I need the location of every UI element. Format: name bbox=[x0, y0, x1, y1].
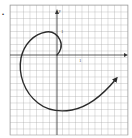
figure-marker: • bbox=[2, 11, 4, 17]
spiral-graph: • y 1 1 bbox=[0, 0, 132, 138]
grid-background bbox=[10, 5, 128, 135]
